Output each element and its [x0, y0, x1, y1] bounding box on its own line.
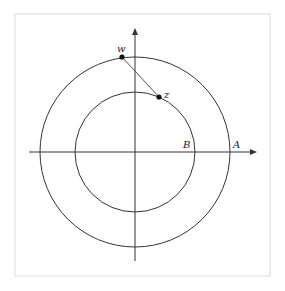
- point-w: [119, 54, 124, 59]
- label-w: w: [117, 43, 126, 54]
- label-A: A: [232, 139, 240, 150]
- y-axis-arrow-icon: [132, 28, 138, 35]
- segment-wz: [122, 57, 159, 97]
- figure-frame: [15, 14, 270, 276]
- diagram-canvas: w z B A: [0, 0, 285, 291]
- diagram-figure: w z B A: [0, 0, 285, 291]
- label-B: B: [182, 139, 190, 150]
- label-z: z: [163, 89, 170, 100]
- x-axis-arrow-icon: [250, 149, 257, 155]
- point-z: [156, 94, 161, 99]
